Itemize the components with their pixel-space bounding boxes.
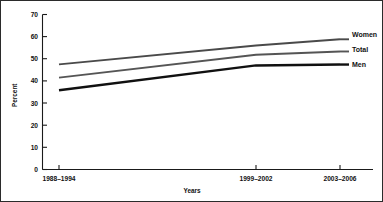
x-axis-title: Years [183, 187, 201, 194]
y-tick-label-50: 50 [31, 55, 39, 62]
legend-label-men: Men [352, 61, 366, 68]
y-tick-marks [43, 15, 48, 170]
x-tick-label-1999-2002: 1999–2002 [239, 175, 272, 182]
y-tick-label-30: 30 [31, 100, 39, 107]
y-tick-label-20: 20 [31, 122, 39, 129]
y-tick-label-60: 60 [31, 33, 39, 40]
legend-label-total: Total [352, 46, 368, 53]
x-tick-label-1988-1994: 1988–1994 [42, 175, 75, 182]
y-tick-label-10: 10 [31, 144, 39, 151]
y-tick-label-40: 40 [31, 77, 39, 84]
x-tick-marks [59, 165, 340, 170]
legend-label-women: Women [352, 31, 377, 38]
y-tick-label-70: 70 [31, 11, 39, 18]
y-axis-title: Percent [11, 83, 18, 107]
x-tick-label-2003-2006: 2003–2006 [323, 175, 356, 182]
y-tick-label-0: 0 [34, 166, 38, 173]
line-chart-canvas: 70 60 50 40 30 20 10 0 Percent 1988–1994… [1, 1, 383, 202]
chart-figure: 70 60 50 40 30 20 10 0 Percent 1988–1994… [0, 0, 383, 202]
series-line-men [59, 65, 340, 91]
